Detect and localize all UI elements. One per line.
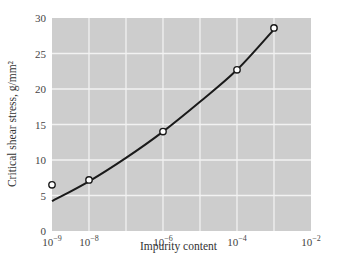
chart: 051015202530 10−910−810−610−410−2 Impuri… bbox=[0, 0, 348, 279]
x-tick-label: 10−4 bbox=[227, 234, 247, 248]
data-point-marker bbox=[271, 25, 277, 31]
y-axis-label-text: Critical shear stress, g/mm² bbox=[6, 60, 19, 187]
data-point-marker bbox=[160, 128, 166, 134]
y-tick-label: 30 bbox=[35, 12, 47, 24]
data-point-marker bbox=[49, 182, 55, 188]
y-tick-label: 25 bbox=[35, 48, 47, 60]
y-tick-label: 10 bbox=[35, 154, 47, 166]
y-tick-label: 20 bbox=[35, 83, 47, 95]
x-axis-label: Impurity content bbox=[140, 240, 218, 253]
y-tick-label: 15 bbox=[35, 119, 47, 131]
x-tick-label: 10−9 bbox=[42, 234, 62, 248]
y-tick-label: 5 bbox=[41, 190, 47, 202]
data-point-marker bbox=[234, 67, 240, 73]
x-tick-label: 10−2 bbox=[301, 234, 321, 248]
data-point-marker bbox=[86, 177, 92, 183]
y-axis-label: Critical shear stress, g/mm² bbox=[6, 60, 19, 187]
x-tick-label: 10−8 bbox=[79, 234, 99, 248]
y-axis-ticks: 051015202530 bbox=[35, 12, 47, 237]
